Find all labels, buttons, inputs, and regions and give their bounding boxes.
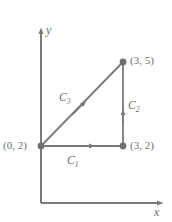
x-axis-label: x bbox=[154, 206, 159, 218]
curve-label-c2: C2 bbox=[128, 100, 139, 114]
point-top-right-vertex bbox=[120, 59, 127, 66]
curve-label-c1: C1 bbox=[67, 155, 78, 169]
point-bottom-right-vertex bbox=[120, 143, 127, 150]
figure-container: y x (0, 2) (3, 2) (3, 5) C1 C2 C3 bbox=[0, 0, 172, 222]
curve-label-c1-base: C bbox=[67, 154, 75, 166]
diagram-canvas bbox=[0, 0, 172, 222]
curve-label-c2-base: C bbox=[128, 99, 136, 111]
curve-label-c1-subscript: 1 bbox=[75, 160, 79, 169]
y-axis-label: y bbox=[46, 24, 51, 36]
curve-label-c3-base: C bbox=[59, 91, 67, 103]
curve-label-c2-subscript: 2 bbox=[136, 105, 140, 114]
curve-label-c3-subscript: 3 bbox=[67, 97, 71, 106]
curve-label-c3: C3 bbox=[59, 92, 70, 106]
curve-c3-arrowhead bbox=[72, 103, 84, 115]
point-origin-vertex bbox=[38, 143, 45, 150]
point-label-0-2: (0, 2) bbox=[3, 140, 27, 151]
point-label-3-2: (3, 2) bbox=[130, 140, 154, 151]
point-label-3-5: (3, 5) bbox=[130, 55, 154, 66]
